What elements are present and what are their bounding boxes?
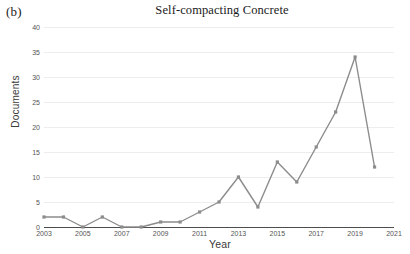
data-point-marker [198,210,201,213]
data-point-marker [159,220,162,223]
x-axis-tick-label: 2011 [192,230,207,237]
x-axis-line [44,227,394,228]
y-axis-tick-label: 40 [32,24,40,31]
data-point-marker [101,215,104,218]
y-axis-tick-label: 15 [32,149,40,156]
data-point-marker [62,215,65,218]
data-point-marker [373,165,376,168]
data-point-marker [315,145,318,148]
y-axis-tick-label: 10 [32,174,40,181]
data-point-marker [120,225,123,228]
data-point-marker [295,180,298,183]
y-axis-tick-label: 5 [36,199,40,206]
x-axis-tick-label: 2007 [114,230,130,237]
x-axis-label: Year [0,238,410,250]
y-axis-tick-label: 35 [32,49,40,56]
data-series-line [44,27,394,227]
data-point-marker [354,55,357,58]
data-point-marker [256,205,259,208]
data-point-marker [179,220,182,223]
data-point-marker [217,200,220,203]
y-axis-tick-label: 25 [32,99,40,106]
x-axis-tick-label: 2005 [75,230,91,237]
series-line [44,57,375,227]
data-point-marker [81,225,84,228]
x-axis-tick-label: 2009 [153,230,169,237]
data-point-marker [237,175,240,178]
chart-title: Self-compacting Concrete [0,3,410,18]
x-axis-tick-label: 2019 [347,230,363,237]
data-point-marker [140,225,143,228]
y-axis-tick-label: 20 [32,124,40,131]
plot-area: 0510152025303540 20032005200720092011201… [44,27,394,227]
x-axis-tick-label: 2013 [231,230,247,237]
data-point-marker [334,110,337,113]
x-axis-tick-label: 2003 [36,230,52,237]
x-axis-tick-label: 2015 [270,230,286,237]
y-axis-tick-label: 30 [32,74,40,81]
data-point-marker [42,215,45,218]
data-point-marker [276,160,279,163]
y-axis-label: Documents [10,57,21,147]
x-axis-tick-label: 2021 [386,230,402,237]
x-axis-tick-label: 2017 [308,230,324,237]
